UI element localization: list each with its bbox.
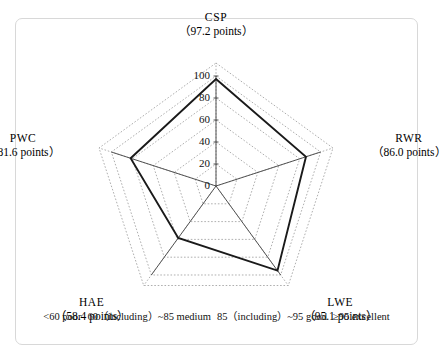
radial-tick-label-60: 60 (170, 113, 210, 125)
axis-label-name-LWE: LWE (285, 295, 395, 309)
axis-label-CSP: CSP（97.2 points） (161, 10, 271, 38)
axis-label-name-CSP: CSP (161, 10, 271, 24)
data-series-polygon (131, 79, 306, 271)
axis-label-name-PWC: PWC (0, 131, 78, 145)
axis-label-value-PWC: （81.6 points） (0, 145, 78, 159)
axis-label-value-CSP: （97.2 points） (161, 24, 271, 38)
axis-label-name-HAE: HAE (37, 295, 147, 309)
radial-tick-label-80: 80 (170, 91, 210, 103)
axis-spokes (111, 76, 320, 275)
legend-item-2: 85（including）~95 good (217, 311, 327, 322)
axis-label-name-RWR: RWR (354, 131, 444, 145)
radial-tick-label-0: 0 (170, 179, 210, 191)
radial-tick-label-40: 40 (170, 135, 210, 147)
legend-item-3: ≥95 excellent (333, 311, 390, 322)
legend-item-1: 60（including）~85 medium (88, 311, 211, 322)
series-polygon (131, 79, 306, 271)
axis-label-RWR: RWR（86.0 points） (354, 131, 444, 159)
radial-tick-label-100: 100 (170, 69, 210, 81)
axis-label-value-RWR: （86.0 points） (354, 145, 444, 159)
radial-tick-label-20: 20 (170, 157, 210, 169)
legend-caption: <60 poor60（including）~85 medium85（includ… (15, 308, 418, 323)
axis-spoke-HAE (151, 186, 216, 275)
axis-label-PWC: PWC（81.6 points） (0, 131, 78, 159)
legend-item-0: <60 poor (43, 311, 81, 322)
